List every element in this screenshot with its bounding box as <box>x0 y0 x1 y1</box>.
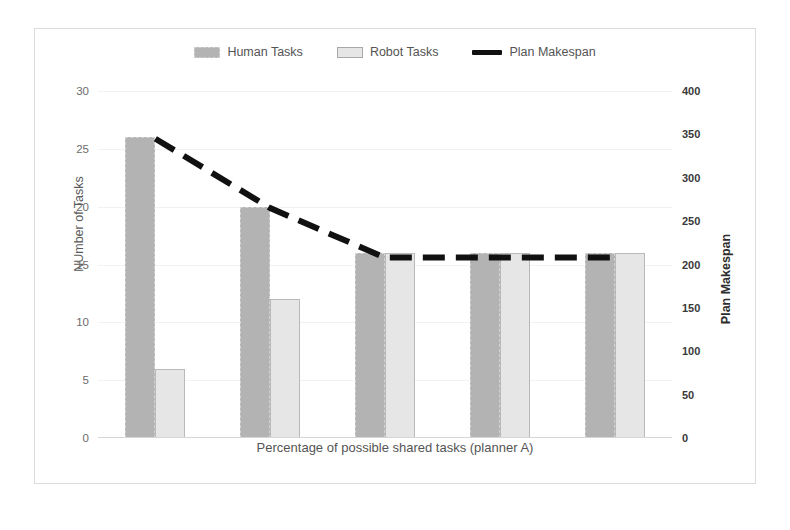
bar-human-tasks[interactable] <box>470 253 500 438</box>
bar-group <box>328 91 443 438</box>
y-tick-right-label: 300 <box>682 172 700 184</box>
legend-item-robot-tasks[interactable]: Robot Tasks <box>337 45 439 59</box>
legend-item-plan-makespan[interactable]: Plan Makespan <box>472 45 595 59</box>
bar-human-tasks[interactable] <box>355 253 385 438</box>
bar-group <box>213 91 328 438</box>
human-tasks-swatch-icon <box>194 47 220 58</box>
y-tick-left-label: 0 <box>83 432 89 444</box>
y-tick-left-label: 20 <box>76 201 89 213</box>
bar-human-tasks[interactable] <box>585 253 615 438</box>
y-tick-left-label: 30 <box>76 85 89 97</box>
chart-frame: Human Tasks Robot Tasks Plan Makespan NU… <box>34 28 756 484</box>
bar-human-tasks[interactable] <box>240 207 270 438</box>
bar-human-tasks[interactable] <box>125 137 155 438</box>
y-tick-right-label: 400 <box>682 85 700 97</box>
y-tick-left-label: 15 <box>76 259 89 271</box>
y-axis-right-title: Plan Makespan <box>719 234 733 324</box>
legend-label-plan-makespan: Plan Makespan <box>509 45 595 59</box>
legend-label-robot-tasks: Robot Tasks <box>370 45 439 59</box>
bar-group <box>442 91 557 438</box>
y-tick-right-label: 200 <box>682 259 700 271</box>
y-tick-right-label: 350 <box>682 128 700 140</box>
legend-item-human-tasks[interactable]: Human Tasks <box>194 45 303 59</box>
y-tick-left-label: 10 <box>76 316 89 328</box>
x-axis-baseline <box>98 437 672 438</box>
bar-robot-tasks[interactable] <box>270 299 300 438</box>
bar-series-container <box>98 91 672 438</box>
bar-group <box>557 91 672 438</box>
bar-robot-tasks[interactable] <box>385 253 415 438</box>
y-tick-right-label: 150 <box>682 302 700 314</box>
y-tick-right-label: 100 <box>682 345 700 357</box>
y-tick-right-label: 250 <box>682 215 700 227</box>
x-axis-title: Percentage of possible shared tasks (pla… <box>35 440 755 455</box>
y-tick-right-label: 0 <box>682 432 688 444</box>
robot-tasks-swatch-icon <box>337 47 363 58</box>
bar-robot-tasks[interactable] <box>615 253 645 438</box>
plan-makespan-line-swatch-icon <box>472 50 502 55</box>
plot-area: 30 25 20 15 10 5 0 400 350 300 250 200 1… <box>98 91 672 438</box>
y-tick-left-label: 5 <box>83 374 89 386</box>
bar-robot-tasks[interactable] <box>155 369 185 438</box>
y-tick-right-label: 50 <box>682 389 694 401</box>
y-axis-left-title: NUmber of Tasks <box>72 176 86 272</box>
legend-label-human-tasks: Human Tasks <box>227 45 303 59</box>
bar-group <box>98 91 213 438</box>
bar-robot-tasks[interactable] <box>500 253 530 438</box>
y-tick-left-label: 25 <box>76 143 89 155</box>
chart-legend: Human Tasks Robot Tasks Plan Makespan <box>35 45 755 59</box>
